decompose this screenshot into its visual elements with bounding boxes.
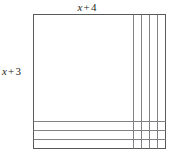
height-label-operator: + <box>7 65 15 77</box>
area-model-svg <box>0 0 174 159</box>
height-label-constant: 3 <box>16 65 22 77</box>
width-label: x+4 <box>0 1 174 13</box>
width-label-constant: 4 <box>91 1 97 13</box>
outer-rectangle <box>34 15 166 149</box>
area-model-figure: x+4 x+3 <box>0 0 174 159</box>
width-label-operator: + <box>82 1 90 13</box>
height-label: x+3 <box>2 65 21 77</box>
